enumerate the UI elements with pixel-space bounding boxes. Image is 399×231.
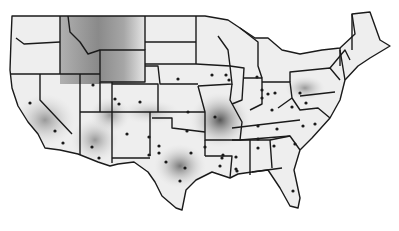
us-map	[0, 0, 399, 231]
